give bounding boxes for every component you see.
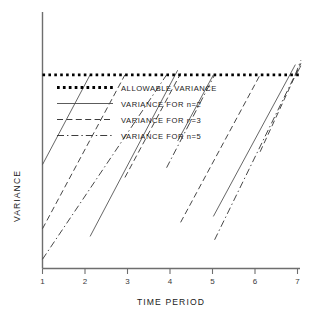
legend-label-allowable-variance: ALLOWABLE VARIANCE — [121, 84, 217, 93]
x-tick-label: 7 — [295, 277, 300, 286]
x-axis-title: TIME PERIOD — [137, 297, 205, 307]
variance-chart-figure: 1 2 3 4 5 6 7 TIME PERIOD VARIANCE ALLOW… — [0, 0, 324, 323]
x-tick-label: 5 — [210, 277, 215, 286]
x-tick-label: 4 — [168, 277, 173, 286]
x-tick-label: 2 — [83, 277, 88, 286]
legend-label-variance-n2: VARIANCE FOR n=2 — [121, 100, 201, 109]
legend-label-variance-n5: VARIANCE FOR n=5 — [121, 132, 201, 141]
y-axis-title: VARIANCE — [12, 170, 22, 222]
chart-canvas: 1 2 3 4 5 6 7 TIME PERIOD VARIANCE ALLOW… — [0, 0, 324, 323]
chart-background — [0, 0, 324, 323]
x-tick-label: 1 — [40, 277, 45, 286]
legend-label-variance-n3: VARIANCE FOR n=3 — [121, 116, 201, 125]
x-tick-label: 6 — [253, 277, 258, 286]
x-tick-label: 3 — [125, 277, 130, 286]
